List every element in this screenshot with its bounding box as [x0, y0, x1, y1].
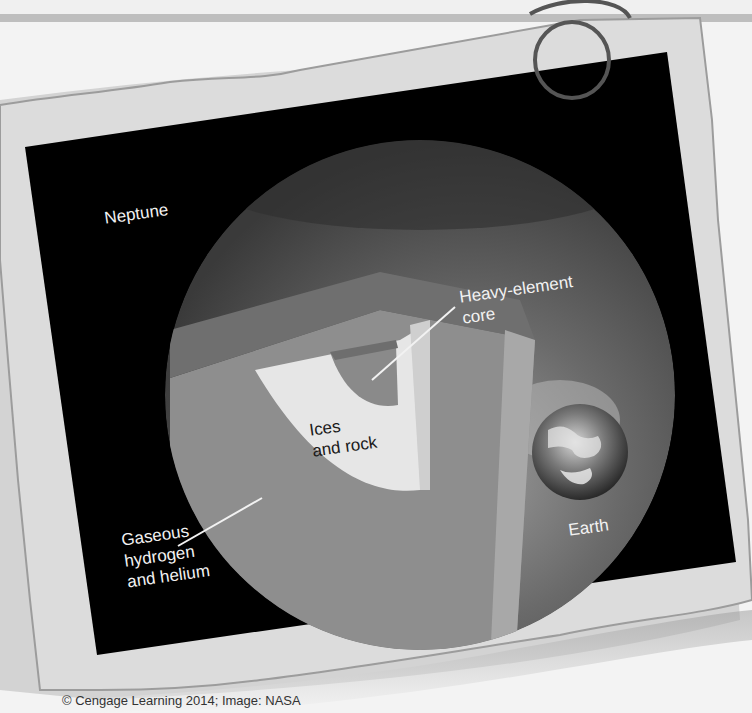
figure-stage: Neptune Heavy-element core Ices and rock…	[0, 0, 752, 713]
mantle-label: Ices and rock	[308, 411, 378, 462]
neptune-cutaway-illustration	[0, 0, 752, 713]
envelope-label: Gaseous hydrogen and helium	[120, 518, 211, 592]
image-credit: © Cengage Learning 2014; Image: NASA	[62, 693, 301, 708]
earth-globe	[532, 404, 628, 500]
